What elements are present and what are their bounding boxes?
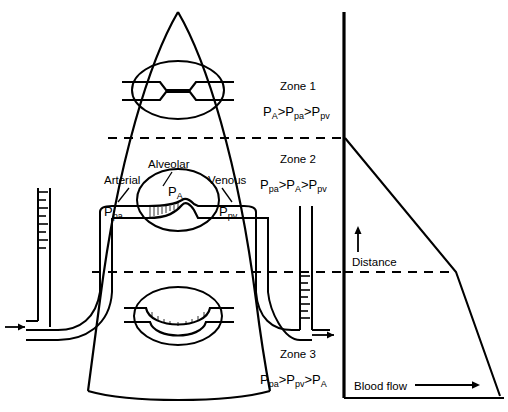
venous-manometer-scale	[300, 276, 310, 318]
venous-manometer	[300, 206, 330, 330]
lung-zones-figure: Zone 1 PA>Ppa>Ppv Zone 2 Ppa>PA>Ppv Zone…	[0, 0, 508, 412]
svg-text:Ppa>Ppv>PA: Ppa>Ppv>PA	[260, 372, 327, 389]
zone1-title: Zone 1	[280, 80, 316, 92]
blood-flow-label: Blood flow	[354, 380, 408, 392]
diagram-canvas: Zone 1 PA>Ppa>Ppv Zone 2 Ppa>PA>Ppv Zone…	[0, 0, 508, 412]
arterial-label: Arterial	[104, 174, 140, 186]
capillary-zone1-upper-wall	[122, 82, 234, 90]
zone2-title: Zone 2	[280, 153, 316, 165]
venous-leader	[222, 188, 232, 202]
p-arterial-sub: pa	[113, 211, 123, 221]
svg-text:Ppa>PA>Ppv: Ppa>PA>Ppv	[260, 177, 327, 194]
blood-flow-chart	[344, 12, 504, 398]
zone3-equation: Ppa>Ppv>PA	[260, 372, 327, 389]
p-alveolar-sub: A	[177, 191, 183, 201]
distance-arrow	[355, 226, 362, 252]
zone1-eq-s3: pv	[320, 111, 330, 121]
zone2-eq-s1: pa	[269, 184, 279, 194]
zone1-eq-p3: >P	[304, 104, 320, 119]
zone2-eq-p2: >P	[279, 177, 295, 192]
zone2-eq-p3: >P	[301, 177, 317, 192]
zone3-eq-p1: P	[260, 372, 269, 387]
capillary-zone1-lower-wall	[122, 92, 234, 100]
inlet-flow-arrow	[5, 324, 25, 331]
alveolar-label: Alveolar	[148, 158, 190, 170]
zone1-eq-p2: >P	[278, 104, 294, 119]
arterial-leader	[118, 188, 129, 202]
p-alveolar-base: P	[168, 184, 177, 199]
blood-flow-arrow	[415, 381, 480, 388]
zone3-eq-s2: pv	[295, 379, 305, 389]
zone3-title: Zone 3	[280, 348, 316, 360]
zone2-eq-p1: P	[260, 177, 269, 192]
venous-label: Venous	[208, 174, 247, 186]
zone1-eq-p1: P	[263, 104, 272, 119]
p-arterial-base: P	[104, 204, 113, 219]
zone3-eq-s1: pa	[269, 379, 279, 389]
zone2-eq-s3: pv	[317, 184, 327, 194]
svg-text:PA>Ppa>Ppv: PA>Ppa>Ppv	[263, 104, 330, 121]
arterial-manometer-scale	[38, 192, 48, 248]
p-venous-base: P	[219, 204, 228, 219]
outlet-flow-arrow	[312, 332, 334, 339]
capillary-zone3-bulge-hatch	[152, 312, 204, 326]
zone3-eq-s3: A	[321, 379, 327, 389]
zone3-eq-p2: >P	[279, 372, 295, 387]
zone1-equation: PA>Ppa>Ppv	[263, 104, 330, 121]
alveolus-zone3	[124, 287, 234, 345]
arterial-manometer	[26, 188, 50, 327]
zone1-eq-s2: pa	[294, 111, 304, 121]
p-alveolar-label: PA	[168, 184, 183, 201]
zone3-eq-p3: >P	[304, 372, 320, 387]
zone2-equation: Ppa>PA>Ppv	[260, 177, 327, 194]
distance-label: Distance	[352, 256, 397, 268]
p-venous-sub: pv	[228, 211, 238, 221]
